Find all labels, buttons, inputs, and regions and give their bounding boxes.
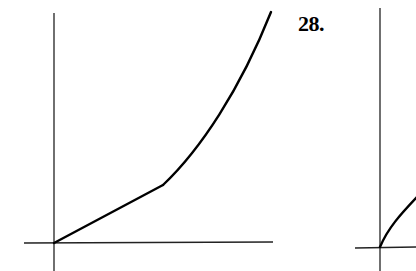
- left-x-axis: [24, 242, 273, 243]
- graphs-canvas: [0, 0, 416, 271]
- left-concave-up-curve: [163, 12, 271, 185]
- right-x-axis: [355, 247, 416, 248]
- left-graph: [24, 12, 273, 271]
- problem-number-label: 28.: [298, 11, 324, 37]
- left-linear-segment: [54, 185, 163, 243]
- right-concave-down-curve: [380, 197, 416, 247]
- right-graph: [355, 8, 416, 271]
